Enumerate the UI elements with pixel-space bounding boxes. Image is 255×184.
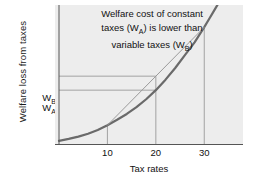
- chart-svg: [55, 5, 243, 145]
- welfare-loss-chart: Welfare loss from taxes WB WA Welfare co…: [0, 0, 255, 184]
- x-tick-label-30: 30: [192, 147, 216, 158]
- x-tick-label-20: 20: [144, 147, 168, 158]
- data-series-group: [59, 5, 228, 141]
- axis-lines-group: [55, 5, 243, 145]
- guide-lines-group: [59, 27, 204, 145]
- y-axis-label: Welfare loss from taxes: [17, 2, 28, 142]
- y-tick-label-wa: WA: [28, 102, 56, 115]
- plot-area: [55, 5, 243, 145]
- welfare-loss-curve: [59, 5, 228, 141]
- y-tick-wa-text: W: [42, 102, 51, 113]
- x-tick-label-10: 10: [95, 147, 119, 158]
- x-axis-label: Tax rates: [55, 163, 243, 174]
